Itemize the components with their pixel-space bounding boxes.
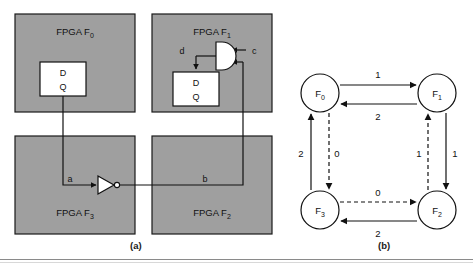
figure-svg: FPGA F0 FPGA F1 FPGA F3 FPGA F2 [0, 0, 473, 267]
graph-edge-label-f0-f3: 0 [334, 148, 339, 159]
graph-node-f1: F1 [418, 74, 456, 112]
caption-a: (a) [130, 240, 142, 251]
figure-divider-rule-secondary [0, 262, 473, 263]
signal-label-d: d [179, 46, 184, 56]
graph-edge-label-f1-f2: 1 [452, 148, 457, 159]
graph-edge-label-f3-f2: 0 [375, 187, 380, 198]
caption-b: (b) [378, 240, 390, 251]
flipflop-f1: D Q [173, 72, 219, 106]
graph-edge-label-f1-f0: 2 [375, 111, 380, 122]
flipflop-f0-d: D [60, 68, 67, 78]
signal-label-c: c [252, 46, 257, 56]
signal-label-b: b [202, 174, 207, 184]
flipflop-f1-d: D [193, 78, 200, 88]
graph-edge-label-f3-f0: 2 [298, 148, 303, 159]
flipflop-f0: D Q [40, 62, 86, 96]
flipflop-f1-q: Q [192, 92, 199, 102]
graph-node-f2: F2 [418, 191, 456, 229]
graph-node-f3: F3 [301, 191, 339, 229]
graph-node-f0: F0 [301, 74, 339, 112]
graph-edge-label-f2-f1: 1 [416, 148, 421, 159]
figure-divider-rule [0, 259, 473, 260]
graph-edge-label-f0-f1: 1 [375, 69, 380, 80]
graph-edge-label-f2-f3: 2 [375, 228, 380, 239]
figure-container: FPGA F0 FPGA F1 FPGA F3 FPGA F2 [0, 0, 473, 267]
flipflop-f0-q: Q [59, 82, 66, 92]
signal-label-a: a [67, 174, 72, 184]
